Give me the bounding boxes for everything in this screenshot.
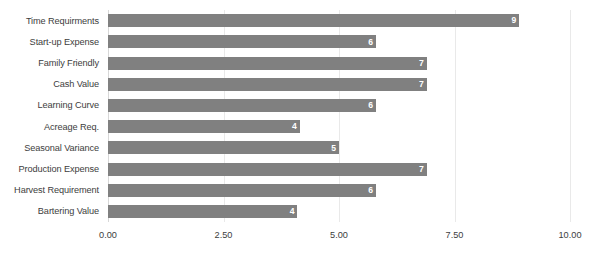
bars-layer: 9677645764 (108, 10, 570, 222)
bar[interactable]: 6 (108, 184, 376, 197)
bar-row: 4 (108, 116, 570, 137)
category-label: Learning Curve (38, 100, 99, 110)
bar-value-label: 4 (292, 122, 300, 131)
category-label: Harvest Requirement (14, 185, 99, 195)
bar-row: 7 (108, 158, 570, 179)
bar-value-label: 5 (331, 144, 339, 153)
category-label: Bartering Value (38, 206, 99, 216)
bar-value-label: 6 (368, 101, 376, 110)
bar-row: 6 (108, 95, 570, 116)
category-label-cell: Acreage Req. (0, 116, 104, 137)
bar-row: 7 (108, 52, 570, 73)
category-label: Seasonal Variance (24, 143, 99, 153)
category-label-cell: Learning Curve (0, 95, 104, 116)
bar-value-label: 7 (419, 59, 427, 68)
gridline (570, 10, 571, 222)
bar[interactable]: 4 (108, 120, 300, 133)
bar[interactable]: 9 (108, 14, 519, 27)
category-label-cell: Production Expense (0, 158, 104, 179)
category-label-cell: Family Friendly (0, 52, 104, 73)
bar[interactable]: 7 (108, 163, 427, 176)
bar-row: 6 (108, 31, 570, 52)
category-label-cell: Harvest Requirement (0, 180, 104, 201)
bar[interactable]: 7 (108, 57, 427, 70)
category-label-cell: Bartering Value (0, 201, 104, 222)
bar[interactable]: 4 (108, 205, 297, 218)
category-label: Production Expense (19, 164, 99, 174)
bar-row: 5 (108, 137, 570, 158)
bar-row: 9 (108, 10, 570, 31)
x-tick-label: 7.50 (446, 230, 464, 240)
bar[interactable]: 7 (108, 78, 427, 91)
x-tick-label: 10.00 (559, 230, 582, 240)
bar-chart: Time RequirmentsStart-up ExpenseFamily F… (0, 0, 607, 256)
bar-value-label: 7 (419, 80, 427, 89)
bar-value-label: 9 (511, 16, 519, 25)
category-label: Time Requirments (26, 16, 99, 26)
category-label: Acreage Req. (44, 122, 99, 132)
bar[interactable]: 5 (108, 141, 339, 154)
bar[interactable]: 6 (108, 99, 376, 112)
x-tick-label: 0.00 (99, 230, 117, 240)
x-tick-label: 2.50 (215, 230, 233, 240)
bar-value-label: 6 (368, 186, 376, 195)
bar[interactable]: 6 (108, 35, 376, 48)
bar-value-label: 6 (368, 38, 376, 47)
category-label: Cash Value (53, 79, 99, 89)
bar-row: 4 (108, 201, 570, 222)
plot-area: 9677645764 (108, 10, 570, 222)
bar-value-label: 7 (419, 165, 427, 174)
x-tick-label: 5.00 (330, 230, 348, 240)
category-label: Start-up Expense (30, 37, 99, 47)
bar-value-label: 4 (290, 207, 298, 216)
bar-row: 7 (108, 74, 570, 95)
category-label: Family Friendly (38, 58, 99, 68)
category-label-cell: Cash Value (0, 74, 104, 95)
category-label-cell: Seasonal Variance (0, 137, 104, 158)
category-axis: Time RequirmentsStart-up ExpenseFamily F… (0, 10, 104, 222)
category-label-cell: Time Requirments (0, 10, 104, 31)
category-label-cell: Start-up Expense (0, 31, 104, 52)
x-axis: 0.002.505.007.5010.00 (108, 224, 570, 246)
bar-row: 6 (108, 180, 570, 201)
